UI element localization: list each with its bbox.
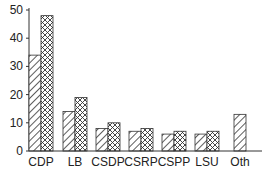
bars (29, 16, 246, 151)
bar-cross-hatch (41, 16, 53, 151)
bar-diagonal-hatch (29, 55, 41, 151)
bar-cross-hatch (174, 131, 186, 151)
bar-diagonal-hatch (96, 128, 108, 151)
y-axis: 01020304050 (10, 3, 29, 158)
bar-cross-hatch (108, 123, 120, 151)
y-tick-label: 50 (10, 3, 24, 17)
bar-diagonal-hatch (234, 114, 246, 151)
x-tick-label: CSDP (91, 155, 124, 169)
x-tick-label: LSU (195, 155, 218, 169)
bar-chart: 01020304050 CDPLBCSDPCSRPCSPPLSUOth (0, 0, 268, 173)
bar-cross-hatch (141, 128, 153, 151)
x-tick-label: LB (68, 155, 83, 169)
bar-cross-hatch (75, 97, 87, 151)
bar-cross-hatch (207, 131, 219, 151)
bar-diagonal-hatch (129, 131, 141, 151)
x-tick-label: CSPP (158, 155, 191, 169)
bar-diagonal-hatch (63, 112, 75, 151)
x-tick-label: Oth (230, 155, 249, 169)
y-tick-label: 10 (10, 116, 24, 130)
y-tick-label: 40 (10, 31, 24, 45)
bar-diagonal-hatch (195, 134, 207, 151)
y-tick-label: 30 (10, 59, 24, 73)
y-tick-label: 20 (10, 88, 24, 102)
y-tick-label: 0 (16, 144, 23, 158)
bar-diagonal-hatch (162, 134, 174, 151)
x-tick-label: CDP (28, 155, 53, 169)
x-tick-label: CSRP (124, 155, 157, 169)
x-axis: CDPLBCSDPCSRPCSPPLSUOth (28, 151, 262, 169)
